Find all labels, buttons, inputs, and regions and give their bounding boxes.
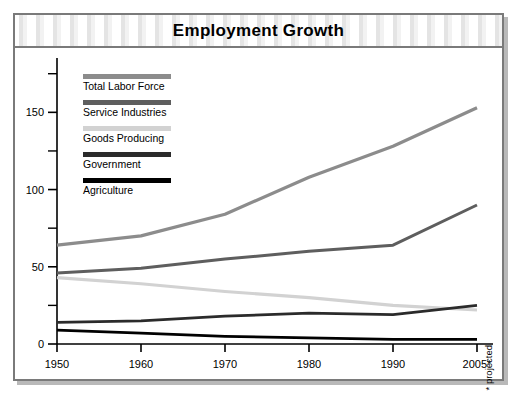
page-title: Employment Growth <box>163 21 354 41</box>
legend-swatch-agriculture <box>83 178 171 183</box>
y-tick-label: 150 <box>26 106 44 118</box>
y-tick-label: 0 <box>38 338 44 350</box>
y-axis-tick-labels: 050100150 <box>26 106 44 350</box>
legend-label-government: Government <box>83 158 213 171</box>
y-tick-label: 100 <box>26 184 44 196</box>
legend-swatch-service-industries <box>83 100 171 105</box>
legend-label-agriculture: Agriculture <box>83 184 213 197</box>
projected-footnote: * projected <box>483 345 494 390</box>
x-tick-label: 1980 <box>297 358 321 370</box>
legend-label-total-labor-force: Total Labor Force <box>83 80 213 93</box>
legend-item-service-industries: Service Industries <box>83 100 213 119</box>
y-tick-label: 50 <box>32 261 44 273</box>
x-tick-label: 1990 <box>381 358 405 370</box>
series-line-goods-producing <box>57 278 477 310</box>
legend-item-agriculture: Agriculture <box>83 178 213 197</box>
legend-item-total-labor-force: Total Labor Force <box>83 74 213 93</box>
legend-label-service-industries: Service Industries <box>83 106 213 119</box>
x-axis-tick-labels: 195019601970198019902005* <box>45 358 492 370</box>
series-line-agriculture <box>57 330 477 339</box>
legend-item-government: Government <box>83 152 213 171</box>
chart-card: Employment Growth 050100150 195019601970… <box>13 13 504 381</box>
page-root: Employment Growth 050100150 195019601970… <box>0 0 521 403</box>
legend-label-goods-producing: Goods Producing <box>83 132 213 145</box>
plot-area: 050100150 195019601970198019902005* Tota… <box>15 48 502 381</box>
chart-legend: Total Labor Force Service Industries Goo… <box>83 74 213 204</box>
chart-title-bar: Employment Growth <box>15 15 502 48</box>
x-tick-label: 1950 <box>45 358 69 370</box>
legend-swatch-goods-producing <box>83 126 171 131</box>
x-tick-label: 1970 <box>213 358 237 370</box>
legend-swatch-government <box>83 152 171 157</box>
x-tick-label: 1960 <box>129 358 153 370</box>
legend-item-goods-producing: Goods Producing <box>83 126 213 145</box>
legend-swatch-total-labor-force <box>83 74 171 79</box>
